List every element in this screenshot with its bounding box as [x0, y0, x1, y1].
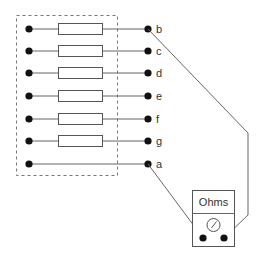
- left-terminal-dot: [25, 160, 32, 167]
- terminal-label-g: g: [156, 135, 162, 147]
- left-terminal-dot: [25, 69, 32, 76]
- resistor: [59, 136, 103, 147]
- row-e: e: [25, 90, 162, 102]
- right-terminal-dot: [144, 47, 151, 54]
- right-terminal-dot: [144, 69, 151, 76]
- right-terminal-dot: [144, 137, 151, 144]
- circuit-diagram: b c d e f: [0, 0, 264, 257]
- ohmmeter: Ohms: [193, 191, 235, 247]
- resistor: [59, 46, 103, 57]
- resistor: [59, 24, 103, 35]
- meter-label: Ohms: [199, 196, 229, 208]
- left-terminal-dot: [25, 47, 32, 54]
- row-c: c: [25, 45, 162, 57]
- terminal-label-b: b: [156, 23, 162, 35]
- terminal-label-d: d: [156, 67, 162, 79]
- meter-terminal-right: [220, 234, 227, 241]
- right-terminal-dot: [144, 115, 151, 122]
- resistor: [59, 114, 103, 125]
- terminal-label-a: a: [156, 158, 163, 170]
- resistor: [59, 68, 103, 79]
- left-terminal-dot: [25, 92, 32, 99]
- right-terminal-dot: [144, 92, 151, 99]
- row-d: d: [25, 67, 162, 79]
- left-terminal-dot: [25, 137, 32, 144]
- resistor: [59, 91, 103, 102]
- terminal-label-e: e: [156, 90, 162, 102]
- terminal-label-f: f: [156, 113, 160, 125]
- row-a: a: [25, 158, 163, 170]
- left-terminal-dot: [25, 25, 32, 32]
- row-b: b: [25, 23, 162, 35]
- meter-terminal-left: [199, 234, 206, 241]
- row-f: f: [25, 113, 160, 125]
- terminal-label-c: c: [156, 45, 162, 57]
- dial-gauge-icon: [207, 219, 220, 232]
- left-terminal-dot: [25, 115, 32, 122]
- row-g: g: [25, 135, 162, 147]
